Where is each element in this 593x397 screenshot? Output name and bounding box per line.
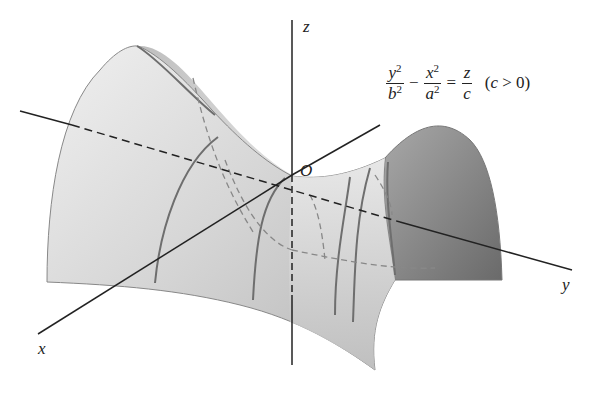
- surface-equation: y2 b2 − x2 a2 = z c (c > 0): [384, 64, 530, 103]
- eq-exp: 2: [434, 83, 440, 95]
- eq-exp: 2: [396, 62, 402, 74]
- y-axis-label: y: [562, 276, 570, 293]
- eq-cond-rest: > 0): [498, 73, 530, 92]
- surface-right-cap: [384, 126, 502, 280]
- eq-minus: −: [409, 73, 419, 93]
- y-axis-back: [20, 111, 72, 125]
- eq-a: a: [426, 84, 435, 103]
- eq-c: c: [461, 84, 473, 103]
- eq-exp: 2: [397, 83, 403, 95]
- eq-exp: 2: [434, 62, 440, 74]
- eq-equals: =: [447, 73, 457, 93]
- z-axis-label: z: [303, 18, 310, 35]
- x-axis-label: x: [38, 340, 46, 357]
- eq-y: y: [388, 63, 396, 82]
- eq-condition: (c > 0): [485, 73, 530, 93]
- eq-x: x: [426, 63, 434, 82]
- saddle-surface-diagram: [0, 0, 593, 397]
- eq-b: b: [388, 84, 397, 103]
- fraction-x2-a2: x2 a2: [424, 64, 442, 103]
- origin-label: O: [300, 162, 312, 179]
- fraction-y2-b2: y2 b2: [386, 64, 404, 103]
- eq-z: z: [462, 64, 473, 84]
- fraction-z-c: z c: [461, 64, 473, 103]
- surface-front-face: [289, 158, 395, 370]
- eq-cond-var: c: [490, 73, 498, 92]
